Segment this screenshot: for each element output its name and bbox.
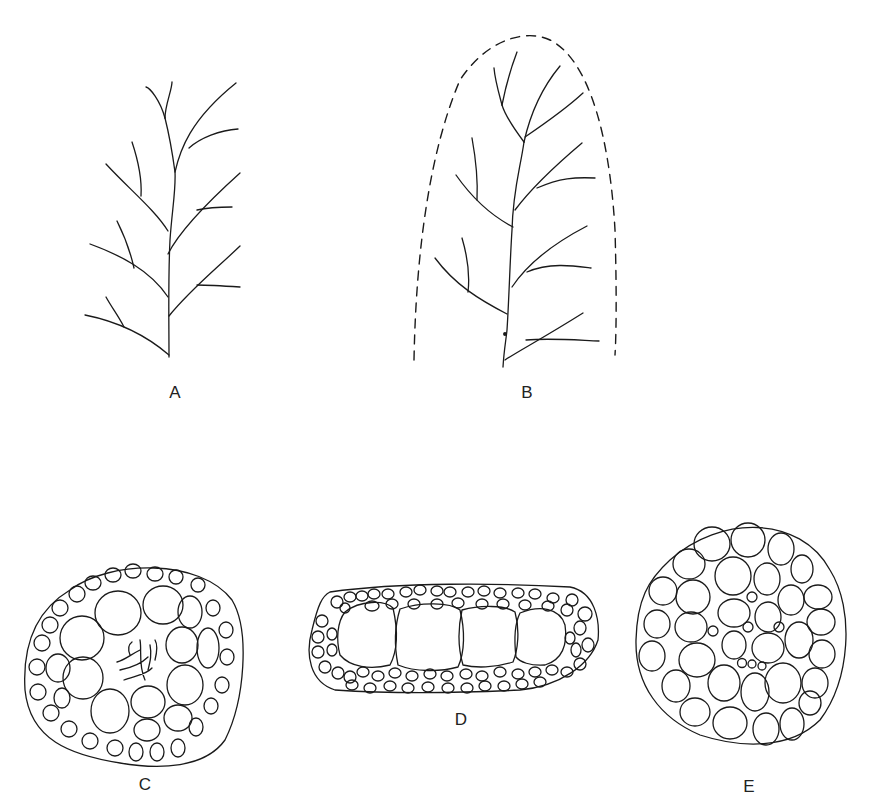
panel-e-label: E — [734, 777, 764, 797]
panel-e: E — [0, 0, 874, 806]
panel-e-cross-section — [0, 0, 874, 806]
